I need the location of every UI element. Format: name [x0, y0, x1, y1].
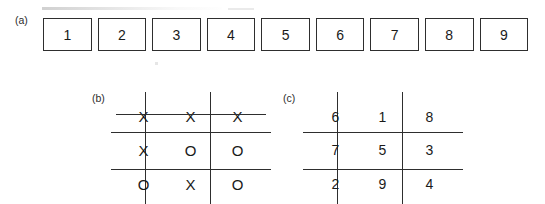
board-cell: O — [120, 167, 167, 201]
magic-square-cell: 3 — [406, 134, 453, 168]
board-cell: X — [214, 100, 261, 134]
numbered-box: 2 — [98, 18, 147, 51]
board-cell: O — [214, 134, 261, 168]
tic-tac-toe-board: X X X X O O O X O — [120, 100, 261, 201]
magic-square-cell: 7 — [312, 134, 359, 168]
panel-label-a: (a) — [15, 14, 28, 26]
magic-square-cell: 5 — [359, 134, 406, 168]
winning-line-strike — [116, 114, 266, 115]
magic-square-cell: 6 — [312, 100, 359, 134]
magic-square-cell: 1 — [359, 100, 406, 134]
panel-label-b: (b) — [92, 92, 105, 104]
numbered-box: 3 — [152, 18, 201, 51]
board-cell: X — [167, 100, 214, 134]
numbered-box: 9 — [480, 18, 529, 51]
board-cell: X — [167, 167, 214, 201]
board-cell: X — [120, 100, 167, 134]
scan-artifact-streak-secondary — [228, 8, 254, 10]
magic-square-cells: 6 1 8 7 5 3 2 9 4 — [312, 100, 453, 201]
numbered-box: 1 — [43, 18, 92, 51]
magic-square-cell: 4 — [406, 167, 453, 201]
magic-square-cell: 9 — [359, 167, 406, 201]
board-cell: O — [214, 167, 261, 201]
numbered-box: 8 — [425, 18, 474, 51]
numbered-box: 7 — [370, 18, 419, 51]
board-cell: X — [120, 134, 167, 168]
magic-square-cell: 2 — [312, 167, 359, 201]
board-cell: O — [167, 134, 214, 168]
magic-square-cell: 8 — [406, 100, 453, 134]
numbered-box-row: 1 2 3 4 5 6 7 8 9 — [43, 18, 528, 51]
numbered-box: 4 — [207, 18, 256, 51]
scan-artifact-streak — [42, 7, 222, 10]
scan-artifact-speck — [155, 62, 158, 65]
numbered-box: 5 — [261, 18, 310, 51]
figure-panels: (a) 1 2 3 4 5 6 7 8 9 (b) X X X X O O O … — [0, 0, 545, 204]
numbered-box: 6 — [316, 18, 365, 51]
panel-label-c: (c) — [283, 92, 295, 104]
magic-square-grid: 6 1 8 7 5 3 2 9 4 — [312, 100, 453, 201]
